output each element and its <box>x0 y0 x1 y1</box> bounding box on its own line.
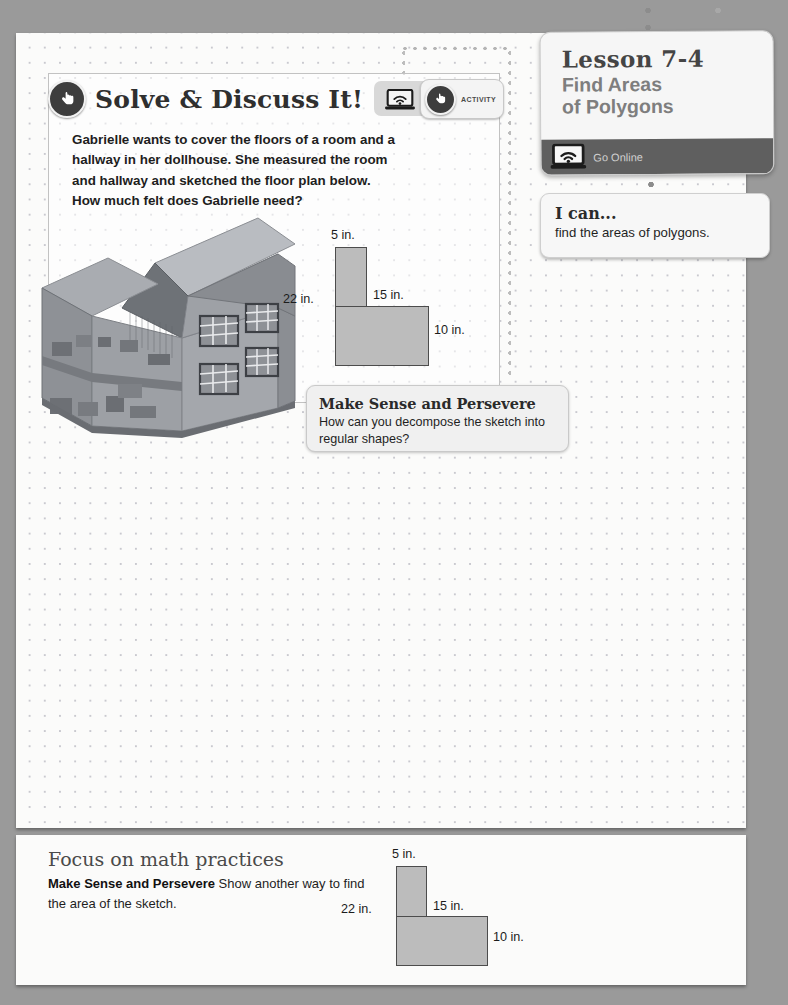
callout-text: How can you decompose the sketch into re… <box>319 414 556 447</box>
page-title: Solve & Discuss It! <box>95 85 363 114</box>
hand-pointer-icon <box>425 84 456 115</box>
focus-section-text: Make Sense and Persevere Show another wa… <box>48 874 368 913</box>
dimension-label-right: 10 in. <box>434 323 465 337</box>
dimension-label-left: 22 in. <box>341 902 372 916</box>
i-can-title: I can... <box>555 204 769 223</box>
lesson-title-line1: Find Areas <box>562 72 773 96</box>
lesson-title-line2: of Polygons <box>562 95 773 119</box>
dotted-guide-vert-right <box>507 48 511 378</box>
focus-section-title: Focus on math practices <box>48 848 284 870</box>
problem-statement: Gabrielle wants to cover the floors of a… <box>72 130 402 212</box>
polygon-seam-mask <box>337 308 365 364</box>
callout-title: Make Sense and Persevere <box>319 395 556 412</box>
dimension-label-right: 10 in. <box>493 930 524 944</box>
solve-and-discuss-header: Solve & Discuss It! <box>48 80 363 118</box>
dotted-connector-left <box>645 2 651 32</box>
activity-label: ACTIVITY <box>461 96 496 103</box>
go-online-label: Go Online <box>593 151 643 163</box>
dimension-label-top: 5 in. <box>331 228 355 242</box>
dollhouse-cutaway-illustration <box>30 216 320 446</box>
l-shaped-polygon-floor-plan: 5 in. 22 in. 15 in. 10 in. <box>295 228 480 368</box>
dimension-label-middle: 15 in. <box>433 899 464 913</box>
i-can-card: I can... find the areas of polygons. <box>540 193 770 258</box>
lesson-number: Lesson 7-4 <box>562 44 773 72</box>
activity-button[interactable]: ACTIVITY <box>374 79 504 119</box>
laptop-wifi-icon <box>385 89 415 115</box>
dotted-connector-lesson-to-ican <box>648 176 654 194</box>
focus-practice-label: Make Sense and Persevere <box>48 876 215 891</box>
dotted-guide-vert-left <box>401 48 405 76</box>
go-online-bar[interactable]: Go Online <box>541 138 773 174</box>
lesson-card: Lesson 7-4 Find Areas of Polygons Go Onl… <box>540 30 775 175</box>
laptop-wifi-icon <box>550 143 586 174</box>
make-sense-callout: Make Sense and Persevere How can you dec… <box>306 385 569 452</box>
i-can-text: find the areas of polygons. <box>555 225 769 240</box>
dimension-label-left: 22 in. <box>283 292 314 306</box>
dimension-label-middle: 15 in. <box>373 288 404 302</box>
dimension-label-top: 5 in. <box>392 847 416 861</box>
dotted-guide-top <box>400 46 510 51</box>
hand-pointer-icon <box>48 80 86 118</box>
l-shaped-polygon-floor-plan-bottom: 5 in. 22 in. 15 in. 10 in. <box>355 848 545 963</box>
polygon-seam-mask <box>398 918 425 964</box>
activity-pill[interactable]: ACTIVITY <box>420 79 504 119</box>
dotted-connector-right <box>715 2 721 24</box>
